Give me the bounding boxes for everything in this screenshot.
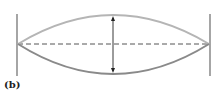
arrow-head-up-icon [111,16,115,21]
figure-label: (b) [4,79,20,90]
standing-wave-diagram [0,0,219,95]
arrow-head-down-icon [111,68,115,73]
